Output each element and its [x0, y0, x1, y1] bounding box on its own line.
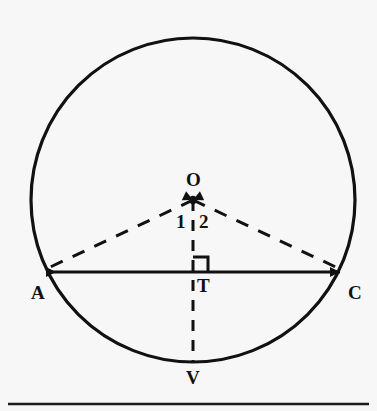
- angle-label-1: 1: [176, 212, 186, 231]
- angle-label-2: 2: [199, 212, 209, 231]
- point-label-v: V: [186, 368, 200, 387]
- radius-segment-OA: [44, 200, 193, 270]
- point-marker-o: [189, 196, 197, 204]
- point-label-t: T: [197, 276, 210, 295]
- point-label-a: A: [31, 283, 45, 302]
- right-angle-marker: [193, 257, 208, 272]
- radius-segment-OC: [193, 200, 342, 270]
- figure-page: O A C T V 1 2: [0, 0, 377, 411]
- point-label-o: O: [186, 170, 201, 189]
- point-label-c: C: [348, 283, 362, 302]
- geometry-figure: [0, 0, 377, 411]
